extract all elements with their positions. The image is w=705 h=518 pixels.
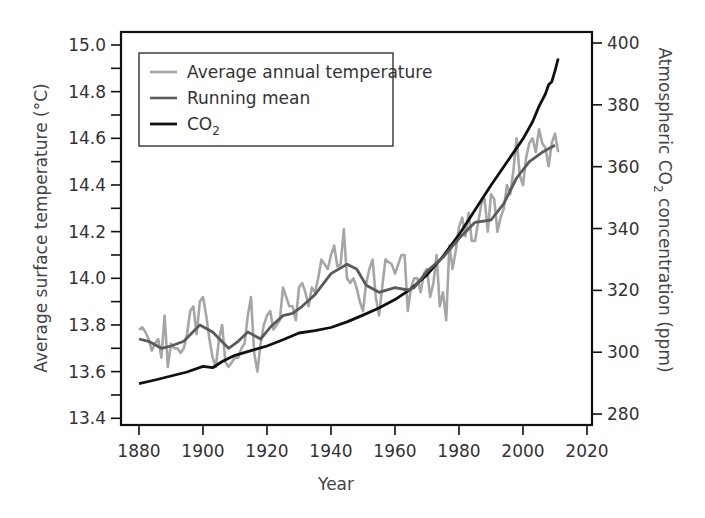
bottom-axis: 18801900192019401960198020002020: [117, 425, 608, 461]
bottom-tick-label: 2020: [565, 441, 608, 461]
legend-label-annual: Average annual temperature: [187, 62, 432, 82]
right-tick-label: 380: [607, 95, 639, 115]
climate-chart: 15.014.814.614.414.214.013.813.613.4 400…: [0, 0, 705, 518]
right-tick-label: 360: [607, 157, 639, 177]
bottom-tick-label: 1940: [309, 441, 352, 461]
left-axis: 15.014.814.614.414.214.013.813.613.4: [68, 35, 121, 428]
bottom-tick-label: 1980: [437, 441, 480, 461]
right-tick-label: 300: [607, 342, 639, 362]
right-tick-label: 340: [607, 219, 639, 239]
left-axis-title: Average surface temperature (°C): [31, 83, 51, 372]
left-tick-label: 14.8: [68, 82, 106, 102]
left-tick-label: 14.6: [68, 128, 106, 148]
left-tick-label: 14.2: [68, 222, 106, 242]
legend-label-running-mean: Running mean: [187, 88, 310, 108]
bottom-tick-label: 1900: [181, 441, 224, 461]
bottom-axis-title: Year: [317, 474, 354, 494]
right-tick-label: 400: [607, 33, 639, 53]
left-tick-label: 15.0: [68, 35, 106, 55]
right-tick-label: 320: [607, 280, 639, 300]
legend: Average annual temperature Running mean …: [139, 53, 432, 146]
right-axis: 400380360340320300280: [592, 33, 639, 424]
bottom-tick-label: 1920: [245, 441, 288, 461]
bottom-tick-label: 1880: [117, 441, 160, 461]
left-tick-label: 14.4: [68, 175, 106, 195]
bottom-tick-label: 2000: [501, 441, 544, 461]
left-tick-label: 13.4: [68, 408, 106, 428]
left-tick-label: 14.0: [68, 268, 106, 288]
left-tick-label: 13.8: [68, 315, 106, 335]
right-tick-label: 280: [607, 404, 639, 424]
right-axis-title: Atmospheric CO2 concentration (ppm): [651, 47, 675, 372]
bottom-tick-label: 1960: [373, 441, 416, 461]
left-tick-label: 13.6: [68, 362, 106, 382]
